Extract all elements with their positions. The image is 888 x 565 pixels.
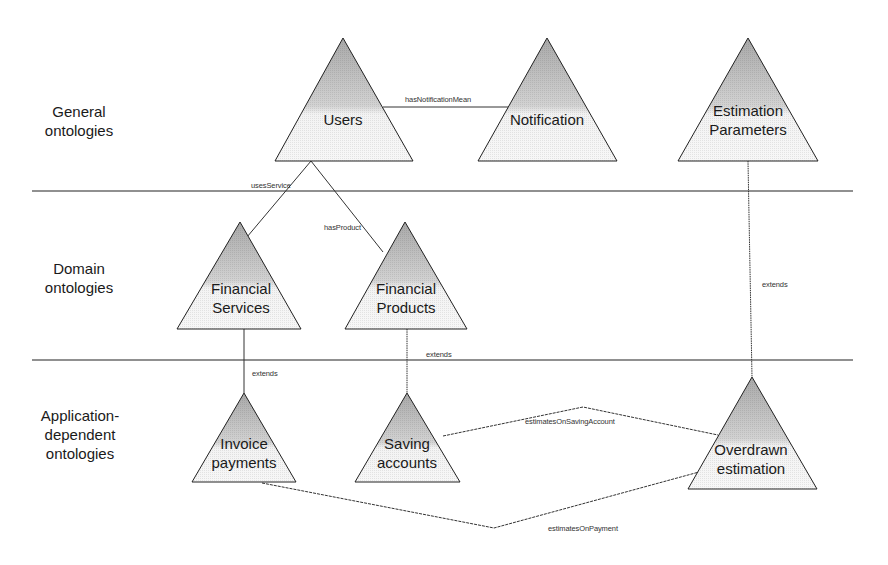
relation-label-extends-products: extends — [426, 350, 452, 359]
node-label-users: Users — [323, 110, 362, 129]
node-label-financial-products: Financial Products — [376, 279, 436, 317]
node-label-notification: Notification — [510, 110, 584, 129]
layer-label-general: General ontologies — [34, 102, 124, 140]
relation-label-has-product: hasProduct — [324, 223, 361, 232]
layer-label-domain: Domain ontologies — [34, 259, 124, 297]
node-label-invoice-payments: Invoice payments — [211, 434, 276, 472]
node-label-saving-accounts: Saving accounts — [377, 434, 437, 472]
relation-uses-service — [247, 161, 311, 237]
node-users-triangle[interactable] — [275, 38, 413, 161]
relation-estimates-on-payment — [262, 469, 710, 528]
node-label-estimation-parameters: Estimation Parameters — [709, 101, 787, 139]
node-notification-triangle[interactable] — [478, 38, 617, 161]
relation-label-extends-services: extends — [252, 369, 278, 378]
relation-has-product — [311, 161, 383, 252]
node-label-overdrawn-estimation: Overdrawn estimation — [714, 440, 787, 478]
relation-label-extends-parameters: extends — [762, 280, 788, 289]
relation-label-has-notification-mean: hasNotificationMean — [405, 95, 471, 104]
relation-label-estimates-on-payment: estimatesOnPayment — [548, 524, 618, 533]
node-estimation-parameters-triangle[interactable] — [678, 38, 818, 161]
relation-label-estimates-on-saving-account: estimatesOnSavingAccount — [525, 417, 615, 426]
ontology-diagram: General ontologies Domain ontologies App… — [0, 0, 888, 565]
relation-extends-parameters — [748, 161, 752, 377]
layer-label-application: Application- dependent ontologies — [28, 406, 132, 463]
diagram-canvas — [0, 0, 888, 565]
relation-label-uses-service: usesService — [251, 181, 291, 190]
node-label-financial-services: Financial Services — [211, 279, 271, 317]
